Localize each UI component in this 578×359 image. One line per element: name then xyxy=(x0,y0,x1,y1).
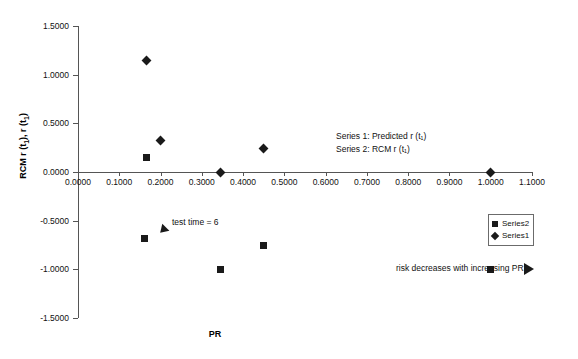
x-tick xyxy=(408,172,409,176)
x-tick-label: 1.1000 xyxy=(510,177,554,187)
x-axis-line xyxy=(78,172,532,173)
x-tick-label: 0.0000 xyxy=(56,177,100,187)
y-tick xyxy=(73,26,78,27)
legend-item-label: Series2 xyxy=(502,220,529,228)
plot-area: 1.50001.00000.50000.0000-0.5000-1.0000-1… xyxy=(0,0,578,359)
x-tick xyxy=(78,172,79,176)
y-tick xyxy=(73,221,78,222)
x-tick-label: 0.9000 xyxy=(427,177,471,187)
x-axis-title: PR xyxy=(0,329,430,339)
data-point-series2 xyxy=(217,266,224,273)
data-point-series2 xyxy=(141,235,148,242)
y-tick xyxy=(73,269,78,270)
x-tick-label: 0.3000 xyxy=(180,177,224,187)
x-tick-label: 0.1000 xyxy=(97,177,141,187)
legend-item-label: Series1 xyxy=(502,232,529,240)
y-axis-title: RCM r (t1), r (t1) xyxy=(18,76,30,216)
y-tick-label: -0.5000 xyxy=(23,216,69,226)
x-tick-label: 0.5000 xyxy=(262,177,306,187)
y-axis-subscript-2: 1 xyxy=(23,116,30,120)
data-point-series2 xyxy=(260,242,267,249)
x-tick xyxy=(243,172,244,176)
x-tick-label: 0.6000 xyxy=(304,177,348,187)
legend-item[interactable]: Series2 xyxy=(492,218,529,230)
x-tick-label: 1.0000 xyxy=(469,177,513,187)
risk-annotation: risk decreases with increasing PR xyxy=(396,263,524,273)
chart-legend: Series2 Series1 xyxy=(488,214,534,246)
legend-item[interactable]: Series1 xyxy=(492,230,529,242)
y-tick-label: -1.0000 xyxy=(23,264,69,274)
data-point-series2 xyxy=(143,154,150,161)
x-tick-label: 0.8000 xyxy=(386,177,430,187)
y-axis-subscript: 1 xyxy=(23,140,30,144)
data-point-series1 xyxy=(141,55,151,65)
y-tick xyxy=(73,318,78,319)
x-tick-label: 0.7000 xyxy=(345,177,389,187)
test-time-annotation: test time = 6 xyxy=(172,217,219,227)
series2-note: Series 2: RCM r (t₁) xyxy=(336,144,410,154)
diamond-marker-icon xyxy=(491,232,499,240)
y-tick-label: 1.5000 xyxy=(23,21,69,31)
y-tick-label: -1.5000 xyxy=(23,313,69,323)
x-tick-label: 0.4000 xyxy=(221,177,265,187)
x-tick xyxy=(284,172,285,176)
y-tick xyxy=(73,75,78,76)
series1-note: Series 1: Predicted r (t₁) xyxy=(336,131,426,141)
test-time-arrow-icon xyxy=(157,224,170,237)
x-tick xyxy=(202,172,203,176)
data-point-series1 xyxy=(156,136,166,146)
x-tick-label: 0.2000 xyxy=(139,177,183,187)
data-point-series1 xyxy=(259,144,269,154)
x-tick xyxy=(449,172,450,176)
data-point-series1 xyxy=(215,167,225,177)
square-marker-icon xyxy=(492,221,498,227)
x-tick xyxy=(119,172,120,176)
risk-arrow-icon xyxy=(524,263,534,275)
x-tick xyxy=(161,172,162,176)
scatter-chart: 1.50001.00000.50000.0000-0.5000-1.0000-1… xyxy=(0,0,578,359)
x-tick xyxy=(326,172,327,176)
y-tick xyxy=(73,123,78,124)
x-tick xyxy=(532,172,533,176)
data-point-series1 xyxy=(486,167,496,177)
x-tick xyxy=(367,172,368,176)
